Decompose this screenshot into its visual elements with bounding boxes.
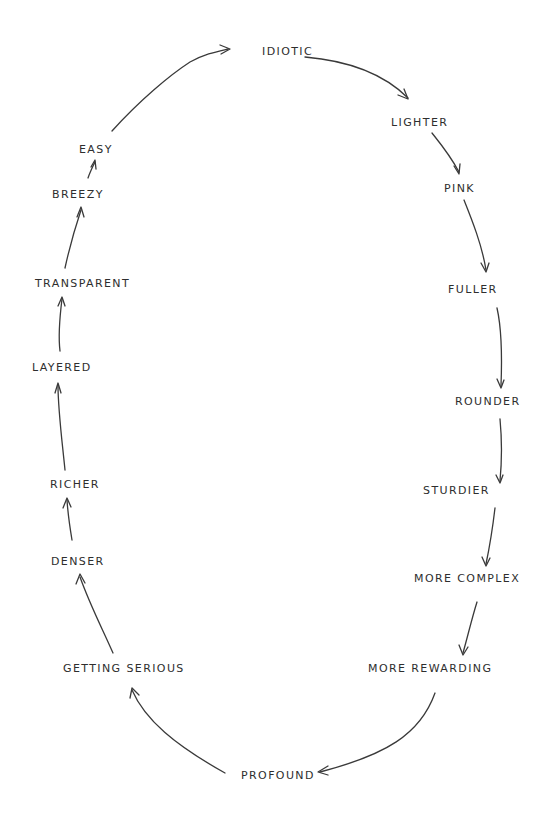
node-label-easy: EASY [79,143,113,156]
node-label-fuller: FULLER [448,283,498,296]
node-label-denser: DENSER [51,555,105,568]
arrow-shaft [486,508,495,564]
arrow-more-complex-to-more-rewarding [459,602,477,655]
arrow-shaft [65,210,81,268]
arrow-shaft [59,299,62,351]
node-label-getting-serious: GETTING SERIOUS [63,662,185,675]
node-label-rounder: ROUNDER [455,395,520,408]
arrow-shaft [305,57,408,98]
arrow-shaft [432,133,459,172]
arrow-getting-serious-to-denser [76,574,113,653]
arrow-idiotic-to-lighter [305,57,408,99]
arrow-rounder-to-sturdier [496,419,503,483]
cycle-diagram: IDIOTICLIGHTERPINKFULLERROUNDERSTURDIERM… [0,0,547,821]
node-label-transparent: TRANSPARENT [35,277,130,290]
arrow-shaft [463,602,477,653]
arrow-denser-to-richer [63,498,72,540]
arrow-richer-to-layered [55,383,65,470]
arrow-fuller-to-rounder [497,308,504,388]
arrow-shaft [88,162,95,178]
node-label-more-rewarding: MORE REWARDING [368,662,492,675]
node-label-richer: RICHER [50,478,100,491]
arrow-shaft [112,49,228,131]
arrow-transparent-to-breezy [65,207,84,268]
arrow-shaft [497,308,502,386]
arrow-pink-to-fuller [464,200,489,272]
arrow-shaft [58,385,65,470]
arrow-more-rewarding-to-profound [318,693,435,775]
node-label-sturdier: STURDIER [423,484,490,497]
arrow-sturdier-to-more-complex [482,508,495,566]
node-label-breezy: BREEZY [52,188,104,201]
arrow-lighter-to-pink [432,133,460,174]
node-label-idiotic: IDIOTIC [262,45,313,58]
arrow-breezy-to-easy [88,160,96,178]
arrowhead-icon [496,475,503,483]
arrow-shaft [320,693,435,772]
arrow-layer [0,0,547,821]
arrow-profound-to-getting-serious [130,688,225,773]
node-label-profound: PROFOUND [241,769,315,782]
arrow-shaft [132,690,225,773]
arrow-shaft [464,200,486,270]
arrow-easy-to-idiotic [112,45,230,131]
node-label-lighter: LIGHTER [391,116,448,129]
node-label-pink: PINK [444,182,475,195]
node-label-more-complex: MORE COMPLEX [414,572,520,585]
arrow-shaft [80,577,113,653]
arrow-layered-to-transparent [58,297,65,351]
node-label-layered: LAYERED [32,361,92,374]
arrow-shaft [500,419,502,481]
